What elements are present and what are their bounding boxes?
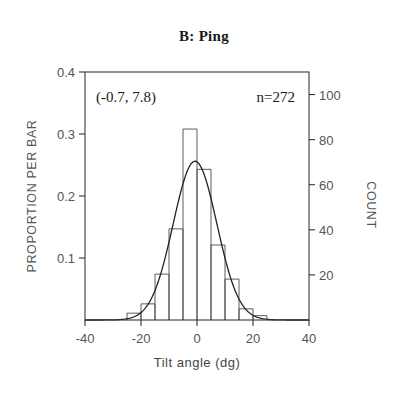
histogram-bar (141, 304, 155, 320)
histogram-bar (155, 274, 169, 320)
x-tick-label: 0 (193, 331, 200, 346)
annotation-mean-sd: (-0.7, 7.8) (96, 89, 156, 106)
x-tick-label: -40 (76, 331, 95, 346)
y-tick-label-right: 20 (319, 268, 333, 283)
y-tick-label-right: 60 (319, 178, 333, 193)
histogram-bar (211, 245, 225, 320)
y-tick-label-right: 80 (319, 133, 333, 148)
x-axis-ticks: -40-2002040 (76, 320, 317, 346)
histogram-bars (127, 129, 267, 320)
y-axis-label-left: PROPORTION PER BAR (25, 120, 39, 273)
y-tick-label-left: 0.1 (57, 251, 75, 266)
histogram-bar (183, 129, 197, 320)
x-tick-label: -20 (132, 331, 151, 346)
histogram-figure: B: Ping -40-2002040 0.10.20.30.4 2040608… (0, 0, 408, 393)
x-tick-label: 20 (246, 331, 260, 346)
y-tick-label-left: 0.3 (57, 127, 75, 142)
x-axis-label: Tilt angle (dg) (154, 355, 241, 370)
annotation-sample-size: n=272 (257, 89, 295, 105)
histogram-bar (169, 229, 183, 320)
y-axis-label-right: COUNT (364, 181, 378, 228)
histogram-bar (225, 279, 239, 320)
y-tick-label-left: 0.2 (57, 189, 75, 204)
chart-title: B: Ping (0, 28, 408, 45)
x-tick-label: 40 (302, 331, 316, 346)
chart-canvas: -40-2002040 0.10.20.30.4 20406080100 (-0… (0, 0, 408, 393)
y-tick-label-right: 40 (319, 223, 333, 238)
y-axis-ticks-left: 0.10.20.30.4 (57, 65, 85, 266)
y-tick-label-left: 0.4 (57, 65, 75, 80)
y-tick-label-right: 100 (319, 88, 341, 103)
y-axis-ticks-right: 20406080100 (309, 88, 341, 283)
